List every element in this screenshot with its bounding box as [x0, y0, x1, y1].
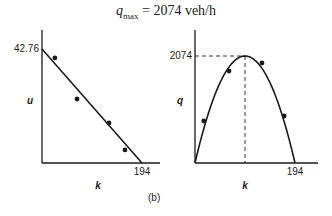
charts-canvas: 42.76 194 u k 2074 194 q k	[0, 0, 332, 216]
right-x-axis-label: k	[242, 180, 248, 191]
left-y-axis-label: u	[27, 95, 33, 106]
right-x-tick-label: 194	[287, 166, 304, 177]
left-y-tick-label: 42.76	[14, 43, 39, 54]
data-point	[201, 119, 206, 124]
data-point	[52, 56, 57, 61]
right-y-tick-label: 2074	[170, 50, 193, 61]
flow-density-chart: 2074 194 q k	[170, 30, 318, 191]
panel-label: (b)	[148, 192, 160, 203]
left-fitted-line	[42, 49, 142, 163]
data-point	[227, 69, 232, 74]
left-x-axis-label: k	[95, 180, 101, 191]
data-point	[107, 121, 112, 126]
data-point	[282, 114, 287, 119]
right-y-axis-label: q	[177, 95, 183, 106]
data-point	[260, 61, 265, 66]
speed-density-chart: 42.76 194 u k	[14, 30, 160, 191]
data-point	[75, 97, 80, 102]
left-x-tick-label: 194	[134, 166, 151, 177]
data-point	[123, 148, 128, 153]
